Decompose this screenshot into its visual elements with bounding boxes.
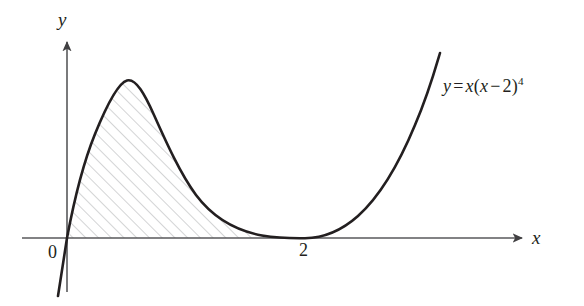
origin-label: 0: [48, 243, 57, 261]
shaded-area-under-curve: [67, 80, 305, 238]
equation-factor: x: [466, 76, 474, 96]
function-graph-figure: y x 0 2 y=x(x−2)4: [0, 0, 584, 306]
curve-equation: y=x(x−2)4: [443, 77, 524, 95]
equation-variable: x: [480, 76, 488, 96]
plot-canvas: [0, 0, 584, 306]
equation-equals: =: [451, 76, 465, 96]
x-tick-label-2: 2: [299, 241, 308, 259]
equation-lhs: y: [443, 76, 451, 96]
equation-minus: −: [488, 76, 502, 96]
axis-label-x: x: [532, 228, 540, 247]
equation-constant: 2: [503, 76, 512, 96]
equation-exponent: 4: [518, 75, 524, 87]
axis-label-y: y: [58, 10, 66, 29]
